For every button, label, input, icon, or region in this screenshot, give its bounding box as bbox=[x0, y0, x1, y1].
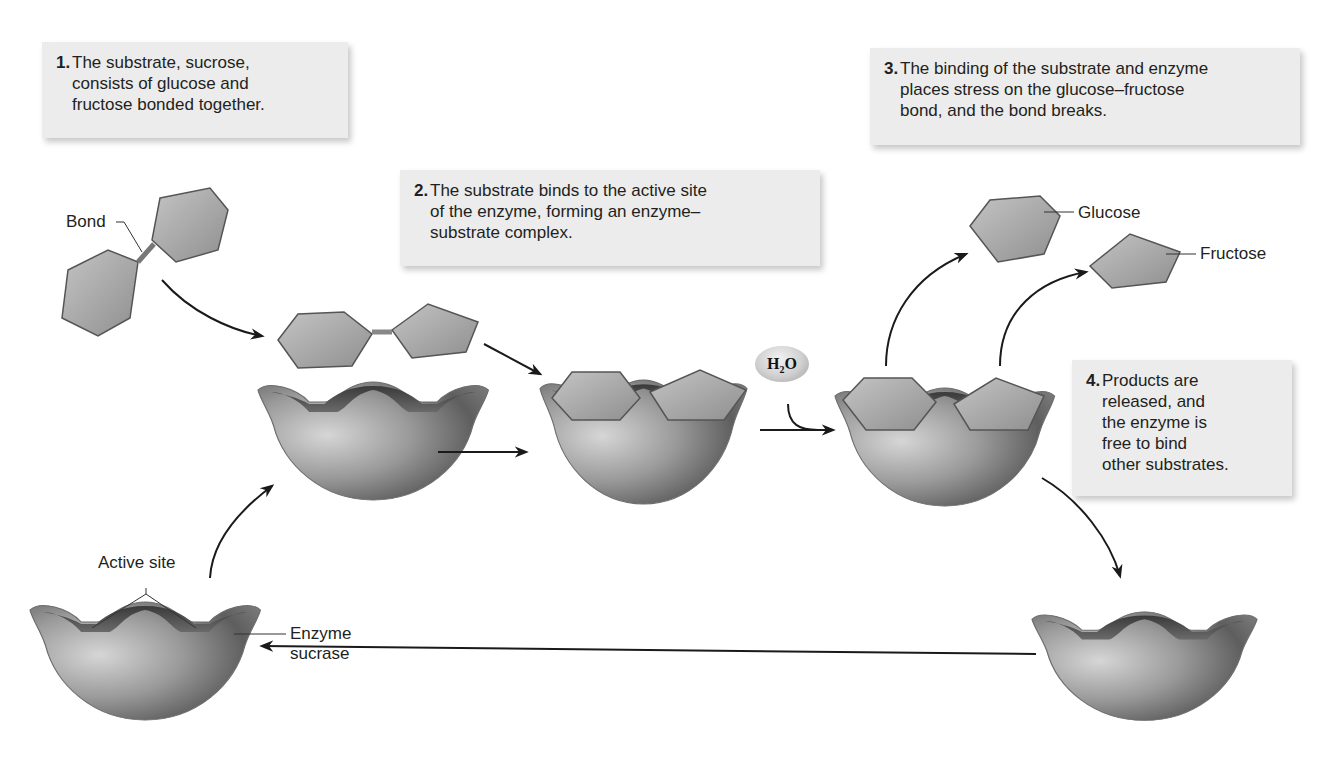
step-2-text: The substrate binds to the active site o… bbox=[414, 180, 806, 243]
enzyme-step2 bbox=[258, 382, 488, 500]
active-site-label: Active site bbox=[98, 553, 175, 573]
step-1-text: The substrate, sucrose, consists of gluc… bbox=[56, 52, 334, 115]
step-4-number: 4. bbox=[1086, 370, 1100, 391]
fructose-label: Fructose bbox=[1200, 244, 1266, 264]
water-molecule-badge: H2O bbox=[755, 346, 809, 382]
step-3-callout: 3. The binding of the substrate and enzy… bbox=[870, 48, 1300, 145]
step-1-number: 1. bbox=[56, 52, 70, 73]
step-4-callout: 4. Products are released, and the enzyme… bbox=[1072, 360, 1292, 496]
step-3-number: 3. bbox=[884, 58, 898, 79]
substrate-approaching bbox=[278, 304, 478, 368]
step-1-callout: 1. The substrate, sucrose, consists of g… bbox=[42, 42, 348, 138]
step-2-number: 2. bbox=[414, 180, 428, 201]
enzyme-sucrase-label: Enzyme sucrase bbox=[290, 624, 351, 664]
step-3-text: The binding of the substrate and enzyme … bbox=[884, 58, 1286, 121]
glucose-molecule bbox=[970, 196, 1060, 262]
step-4-text: Products are released, and the enzyme is… bbox=[1086, 370, 1278, 475]
bond-label: Bond bbox=[66, 212, 106, 232]
step-2-callout: 2. The substrate binds to the active sit… bbox=[400, 170, 820, 266]
fructose-molecule bbox=[1090, 234, 1180, 288]
glucose-label: Glucose bbox=[1078, 203, 1140, 223]
